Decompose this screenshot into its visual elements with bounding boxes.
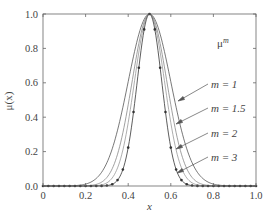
ytick-0.2: 0.2 [25, 146, 38, 157]
ytick-0.4: 0.4 [25, 112, 39, 123]
marker-point [164, 111, 167, 114]
ytick-1.0: 1.0 [25, 9, 38, 20]
marker-point [122, 168, 125, 171]
marker-point [132, 111, 135, 114]
marker-point [159, 66, 162, 69]
label-m1: m = 1 [211, 78, 237, 90]
xtick-0: 0 [40, 190, 45, 201]
xtick-0.4: 0.4 [122, 190, 136, 201]
marker-point [170, 146, 173, 149]
marker-point [191, 184, 194, 187]
marker-point [175, 168, 178, 171]
marker-point [180, 179, 183, 182]
xtick-0.8: 0.8 [207, 190, 220, 201]
marker-point [154, 28, 157, 31]
marker-point [111, 183, 114, 186]
marker-point [138, 66, 141, 69]
label-m3: m = 3 [211, 151, 238, 163]
xtick-0.6: 0.6 [164, 190, 177, 201]
marker-point [143, 28, 146, 31]
label-m2: m = 2 [211, 127, 238, 139]
ytick-0.8: 0.8 [25, 43, 38, 54]
ytick-0.6: 0.6 [25, 77, 38, 88]
label-m1.5: m = 1.5 [211, 102, 246, 114]
membership-chart: 0.0 0.2 0.4 0.6 0.8 1.0 0 0.2 0.4 0.6 0.… [0, 0, 272, 213]
legend-title: μm [217, 36, 229, 49]
marker-point [127, 146, 130, 149]
x-axis-label: x [146, 200, 152, 212]
y-axis-label: μ(x) [2, 91, 15, 110]
marker-point [185, 183, 188, 186]
ytick-0: 0.0 [25, 181, 38, 192]
marker-point [106, 184, 109, 187]
marker-point [116, 179, 119, 182]
xtick-1.0: 1.0 [249, 190, 262, 201]
xtick-0.2: 0.2 [79, 190, 92, 201]
